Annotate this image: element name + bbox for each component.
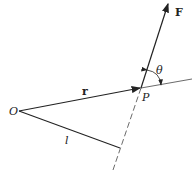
lever-arm-l (19, 111, 120, 148)
label-theta: θ (156, 64, 163, 77)
label-r: r (82, 85, 88, 98)
label-point: P (141, 91, 150, 104)
label-f: F (175, 6, 183, 19)
force-vector-f (141, 4, 168, 88)
label-origin: O (9, 105, 18, 118)
r-extension-line (141, 79, 192, 88)
line-of-action (113, 88, 141, 170)
position-vector-r (19, 88, 140, 111)
torque-diagram: O P r F θ l (0, 0, 196, 177)
label-l: l (65, 134, 69, 147)
